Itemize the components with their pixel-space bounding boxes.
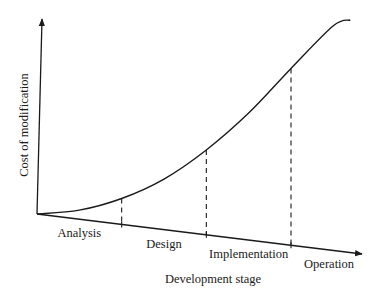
x-category-label: Design	[146, 237, 182, 251]
y-axis-label: Cost of modification	[17, 73, 31, 177]
cost-of-modification-chart: AnalysisDesignImplementationOperation De…	[0, 0, 382, 304]
x-axis-label: Development stage	[165, 272, 262, 286]
x-category-label: Operation	[304, 257, 355, 271]
y-axis	[37, 19, 42, 214]
cost-curve	[37, 20, 350, 214]
x-category-label: Analysis	[57, 226, 101, 240]
x-category-label: Implementation	[209, 247, 289, 261]
